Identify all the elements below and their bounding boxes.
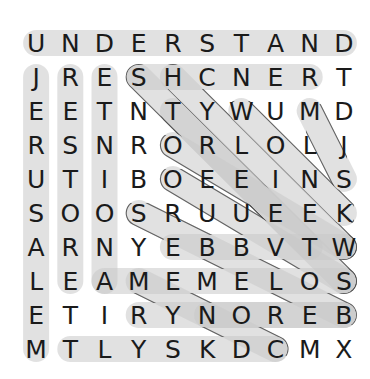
grid-letter[interactable]: N [293,26,327,60]
grid-letter[interactable]: N [224,60,258,94]
grid-letter[interactable]: L [224,128,258,162]
grid-letter[interactable]: I [87,162,121,196]
grid-letter[interactable]: B [122,162,156,196]
grid-letter[interactable]: M [190,264,224,298]
grid-letter[interactable]: T [156,94,190,128]
grid-letter[interactable]: N [87,230,121,264]
grid-letter[interactable]: S [122,196,156,230]
grid-letter[interactable]: E [224,264,258,298]
grid-letter[interactable]: R [258,298,292,332]
grid-letter[interactable]: E [190,162,224,196]
grid-letter[interactable]: L [19,264,53,298]
grid-letter[interactable]: T [53,162,87,196]
grid-letter[interactable]: D [224,332,258,366]
grid-letter[interactable]: E [19,298,53,332]
grid-letter[interactable]: L [293,128,327,162]
grid-letter[interactable]: Y [122,332,156,366]
grid-letter[interactable]: R [293,60,327,94]
grid-letter[interactable]: R [156,26,190,60]
grid-letter[interactable]: U [190,196,224,230]
grid-letter[interactable]: O [258,128,292,162]
grid-letter[interactable]: R [156,196,190,230]
grid-letter[interactable]: C [190,60,224,94]
grid-letter[interactable]: E [53,264,87,298]
grid-letter[interactable]: O [293,264,327,298]
grid-letter[interactable]: D [327,94,361,128]
grid-letter[interactable]: S [190,26,224,60]
grid-letter[interactable]: U [19,162,53,196]
grid-letter[interactable]: E [156,264,190,298]
grid-letter[interactable]: T [53,298,87,332]
grid-letter[interactable]: I [87,298,121,332]
grid-letter[interactable]: L [258,264,292,298]
grid-letter[interactable]: S [327,264,361,298]
grid-letter[interactable]: O [87,196,121,230]
grid-letter[interactable]: S [122,60,156,94]
grid-letter[interactable]: Y [122,230,156,264]
grid-letter[interactable]: R [122,298,156,332]
grid-letter[interactable]: X [327,332,361,366]
grid-letter[interactable]: O [156,162,190,196]
grid-letter[interactable]: M [19,332,53,366]
grid-letter[interactable]: D [87,26,121,60]
grid-letter[interactable]: V [258,230,292,264]
grid-letter[interactable]: O [224,298,258,332]
grid-letter[interactable]: Y [190,94,224,128]
grid-letter[interactable]: K [190,332,224,366]
grid-letter[interactable]: U [19,26,53,60]
grid-letter[interactable]: T [53,332,87,366]
grid-letter[interactable]: Y [156,298,190,332]
grid-letter[interactable]: E [258,196,292,230]
grid-letter[interactable]: S [156,332,190,366]
grid-letter[interactable]: K [327,196,361,230]
grid-letter[interactable]: N [122,94,156,128]
grid-letter[interactable]: E [53,94,87,128]
grid-letter[interactable]: I [258,162,292,196]
grid-letter[interactable]: N [87,128,121,162]
grid-letter[interactable]: W [224,94,258,128]
grid-letter[interactable]: J [19,60,53,94]
grid-letter[interactable]: S [19,196,53,230]
grid-letter[interactable]: T [87,94,121,128]
grid-letter[interactable]: A [87,264,121,298]
grid-letter[interactable]: H [156,60,190,94]
grid-letter[interactable]: S [327,162,361,196]
grid-letter[interactable]: M [293,332,327,366]
grid-letter[interactable]: T [327,60,361,94]
grid-letter[interactable]: R [190,128,224,162]
grid-letter[interactable]: R [53,60,87,94]
grid-letter[interactable]: A [19,230,53,264]
grid-letter[interactable]: E [224,162,258,196]
grid-letter[interactable]: C [258,332,292,366]
grid-letter[interactable]: B [327,298,361,332]
grid-letter[interactable]: O [156,128,190,162]
grid-letter[interactable]: E [293,196,327,230]
grid-letter[interactable]: N [190,298,224,332]
grid-letter[interactable]: O [53,196,87,230]
grid-letter[interactable]: T [224,26,258,60]
grid-letter[interactable]: E [87,60,121,94]
grid-letter[interactable]: R [122,128,156,162]
grid-letter[interactable]: U [224,196,258,230]
grid-letter[interactable]: E [156,230,190,264]
grid-letter[interactable]: E [19,94,53,128]
grid-letter[interactable]: E [293,298,327,332]
grid-letter[interactable]: B [224,230,258,264]
grid-letter[interactable]: M [293,94,327,128]
grid-letter[interactable]: B [190,230,224,264]
grid-letter[interactable]: R [19,128,53,162]
grid-letter[interactable]: E [258,60,292,94]
grid-letter[interactable]: W [327,230,361,264]
grid-letter[interactable]: A [258,26,292,60]
grid-letter[interactable]: J [327,128,361,162]
grid-letter[interactable]: L [87,332,121,366]
grid-letter[interactable]: D [327,26,361,60]
grid-letter[interactable]: N [293,162,327,196]
grid-letter[interactable]: T [293,230,327,264]
grid-letter[interactable]: S [53,128,87,162]
grid-letter[interactable]: U [258,94,292,128]
grid-letter[interactable]: R [53,230,87,264]
grid-letter[interactable]: E [122,26,156,60]
grid-letter[interactable]: M [122,264,156,298]
grid-letter[interactable]: N [53,26,87,60]
